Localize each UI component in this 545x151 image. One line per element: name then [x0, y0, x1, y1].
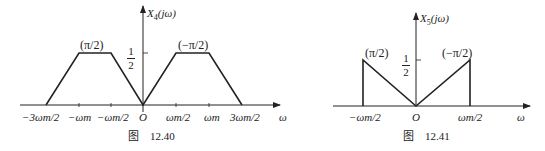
y-axis-label: X5(jω): [420, 13, 449, 27]
phase-label-right: (−π/2): [442, 47, 472, 59]
level-label: 12: [402, 53, 410, 78]
diagram-canvas: [0, 0, 545, 151]
origin-label: O: [412, 112, 420, 123]
tick-label: −ωm/2: [97, 112, 129, 123]
figure-caption: 图 12.40: [128, 131, 175, 142]
origin-label: O: [139, 112, 147, 123]
y-axis-label: X4(jω): [147, 8, 176, 22]
tick-label: 3ωm/2: [230, 112, 260, 123]
magnitude-curve: [46, 53, 242, 105]
tick-label: ωm/2: [166, 112, 190, 123]
tick-label: −ωm: [68, 112, 91, 123]
tick-label: ωm: [204, 112, 220, 123]
phase-label-left: (π/2): [365, 47, 388, 59]
x-axis-label: ω: [517, 112, 525, 123]
phase-label-right: (−π/2): [178, 39, 208, 51]
x-axis-label: ω: [279, 112, 287, 123]
tick-label: −3ωm/2: [22, 112, 59, 123]
tick-label: −ωm/2: [349, 112, 381, 123]
phase-label-left: (π/2): [80, 39, 103, 51]
tick-label: ωm/2: [458, 112, 482, 123]
level-label: 12: [127, 46, 135, 71]
figure-caption: 图 12.41: [403, 131, 450, 142]
